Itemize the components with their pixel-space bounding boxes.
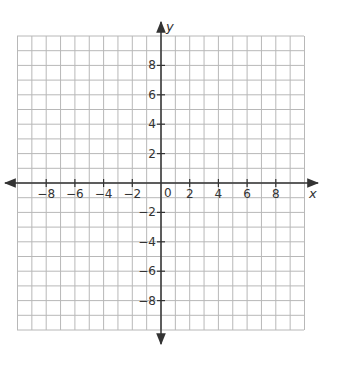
x-axis-label: x bbox=[308, 186, 317, 201]
axes bbox=[5, 22, 318, 344]
x-tick-label: 8 bbox=[272, 187, 280, 201]
x-tick-label: −2 bbox=[123, 187, 141, 201]
x-tick-label: 2 bbox=[186, 187, 194, 201]
x-tick-label: −6 bbox=[66, 187, 84, 201]
y-tick-label: −4 bbox=[138, 235, 156, 249]
y-tick-label: −6 bbox=[138, 264, 156, 278]
y-tick-label: 8 bbox=[148, 58, 156, 72]
y-tick-label: −2 bbox=[138, 205, 156, 219]
x-tick-label: 4 bbox=[215, 187, 223, 201]
coordinate-plane: −8−6−4−224688642−2−4−6−8 x y 0 bbox=[0, 0, 340, 376]
x-tick-label: −4 bbox=[95, 187, 113, 201]
y-tick-label: 4 bbox=[148, 117, 156, 131]
y-tick-label: 6 bbox=[148, 88, 156, 102]
origin-label: 0 bbox=[164, 186, 172, 200]
y-tick-label: −8 bbox=[138, 294, 156, 308]
x-tick-label: −8 bbox=[37, 187, 55, 201]
x-tick-label: 6 bbox=[243, 187, 251, 201]
y-axis-label: y bbox=[165, 19, 174, 34]
y-tick-label: 2 bbox=[148, 147, 156, 161]
